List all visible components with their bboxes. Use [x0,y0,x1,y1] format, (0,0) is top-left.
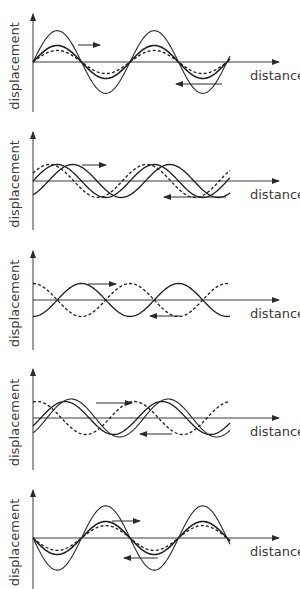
x-axis-label: distance [250,187,300,202]
x-axis-label: distance [250,544,300,559]
y-axis-label: displacement [7,22,22,110]
panel-2: displacementdistance [7,132,300,230]
x-axis-label: distance [250,306,300,321]
panel-1: displacementdistance [7,14,300,112]
y-axis-label: displacement [7,140,22,228]
y-axis-label: displacement [7,499,22,587]
panel-5: displacementdistance [7,490,300,589]
x-axis-label: distance [250,424,300,439]
y-axis-label: displacement [7,379,22,467]
panel-3: displacementdistance [7,251,300,350]
panel-4: displacementdistance [7,369,300,470]
wave-superposition-figure: displacementdistancedisplacementdistance… [0,0,300,589]
y-axis-label: displacement [7,260,22,348]
x-axis-label: distance [250,68,300,83]
